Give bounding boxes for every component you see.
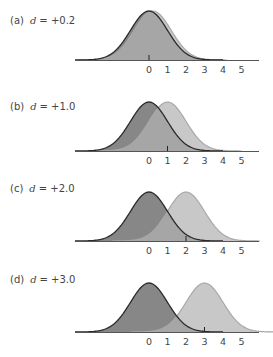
- x-tick-label: 3: [201, 155, 207, 166]
- panel-a: 012345(a)d= +0.2: [10, 11, 259, 75]
- x-tick-label: 5: [238, 245, 244, 256]
- effect-size-value: = +1.0: [40, 101, 76, 112]
- panel-label: (a)d= +0.2: [10, 15, 75, 26]
- panel-b: 012345(b)d= +1.0: [10, 101, 259, 166]
- x-tick-label: 0: [146, 155, 152, 166]
- effect-size-value: = +2.0: [39, 183, 75, 194]
- panel-letter: (b): [10, 101, 24, 112]
- x-tick-label: 3: [201, 245, 207, 256]
- x-tick-label: 5: [238, 64, 244, 75]
- effect-size-symbol: d: [29, 183, 35, 194]
- x-tick-label: 4: [220, 336, 226, 347]
- x-tick-label: 1: [164, 336, 170, 347]
- x-tick-label: 4: [220, 245, 226, 256]
- x-tick-label: 5: [238, 336, 244, 347]
- x-tick-label: 3: [201, 64, 207, 75]
- x-tick-label: 5: [238, 155, 244, 166]
- effect-size-value: = +0.2: [39, 15, 75, 26]
- x-tick-label: 2: [183, 155, 189, 166]
- panel-letter: (c): [10, 183, 23, 194]
- panel-letter: (a): [10, 15, 24, 26]
- x-tick-label: 1: [164, 155, 170, 166]
- x-tick-label: 0: [146, 336, 152, 347]
- x-tick-label: 4: [220, 155, 226, 166]
- effect-size-chart: 012345(a)d= +0.2012345(b)d= +1.0012345(c…: [0, 0, 273, 357]
- effect-size-value: = +3.0: [40, 274, 76, 285]
- x-tick-label: 1: [164, 64, 170, 75]
- x-tick-label: 2: [183, 245, 189, 256]
- x-tick-label: 2: [183, 336, 189, 347]
- x-tick-label: 0: [146, 64, 152, 75]
- overlap-area: [75, 11, 223, 60]
- panel-d: 012345(d)d= +3.0: [10, 274, 273, 347]
- effect-size-symbol: d: [30, 101, 36, 112]
- x-tick-label: 4: [220, 64, 226, 75]
- x-tick-label: 3: [201, 336, 207, 347]
- panel-label: (d)d= +3.0: [10, 274, 75, 285]
- x-tick-label: 1: [164, 245, 170, 256]
- effect-size-symbol: d: [30, 15, 36, 26]
- effect-size-symbol: d: [30, 274, 36, 285]
- panel-c: 012345(c)d= +2.0: [10, 183, 260, 256]
- panel-letter: (d): [10, 274, 24, 285]
- x-tick-label: 2: [183, 64, 189, 75]
- panel-label: (c)d= +2.0: [10, 183, 75, 194]
- x-tick-label: 0: [146, 245, 152, 256]
- panel-label: (b)d= +1.0: [10, 101, 75, 112]
